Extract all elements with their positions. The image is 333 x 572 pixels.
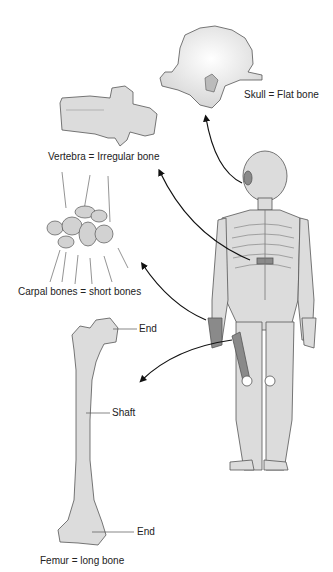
femur-end-top-label: End [139, 323, 157, 334]
femur-end-bottom-label: End [137, 526, 155, 537]
carpal-label: Carpal bones = short bones [18, 286, 141, 297]
vertebra-label: Vertebra = Irregular bone [48, 151, 159, 162]
vertebra-illustration [60, 86, 157, 146]
femur-illustration [58, 318, 137, 545]
femur-shaft-label: Shaft [112, 407, 135, 418]
femur-label: Femur = long bone [40, 555, 124, 566]
skeleton-figure [208, 151, 316, 470]
carpal-illustration [47, 172, 128, 284]
skull-label: Skull = Flat bone [244, 89, 319, 100]
arrow-to-carpal [143, 265, 206, 320]
arrow-to-skull [206, 118, 242, 183]
